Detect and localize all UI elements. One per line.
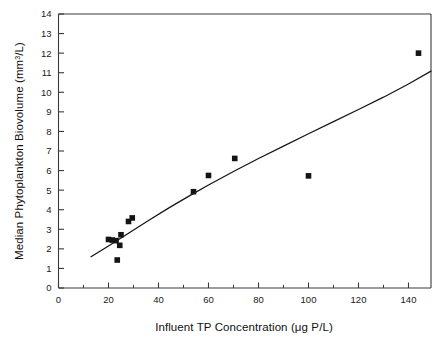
y-tick-label: 2 (46, 243, 51, 254)
x-tick-label: 20 (103, 294, 114, 305)
x-tick-label: 80 (253, 294, 264, 305)
x-axis-title: Influent TP Concentration (μg P/L) (155, 321, 333, 333)
y-tick-label: 11 (42, 67, 52, 78)
scatter-plot: 020406080100120140 01234567891011121314 … (0, 0, 447, 346)
x-tick-label: 40 (153, 294, 164, 305)
data-point-marker (129, 215, 135, 221)
data-point-marker (114, 257, 120, 263)
x-tick-label: 100 (301, 294, 317, 305)
x-tick-label: 120 (351, 294, 367, 305)
x-tick-label: 0 (56, 294, 61, 305)
x-tick-label: 60 (203, 294, 214, 305)
y-tick-label: 8 (46, 126, 51, 137)
data-point-marker (117, 243, 123, 249)
figure-container: 020406080100120140 01234567891011121314 … (0, 0, 447, 346)
data-point-marker (416, 50, 422, 56)
y-tick-label: 13 (41, 28, 52, 39)
y-tick-label: 7 (46, 145, 51, 156)
y-tick-label: 9 (46, 106, 51, 117)
y-tick-label: 3 (46, 224, 51, 235)
y-tick-label: 0 (46, 282, 51, 293)
data-point-marker (118, 232, 124, 238)
y-tick-label: 6 (46, 165, 51, 176)
y-tick-label: 10 (41, 87, 52, 98)
y-tick-label: 5 (46, 185, 51, 196)
x-tick-label: 140 (401, 294, 417, 305)
y-tick-label: 14 (41, 8, 52, 19)
figure-background (0, 0, 447, 346)
y-axis-title: Median Phytoplankton Biovolume (mm3/L) (13, 42, 25, 260)
data-point-marker (232, 156, 238, 162)
data-point-marker (191, 189, 197, 195)
y-tick-label: 12 (41, 48, 52, 59)
data-point-marker (206, 173, 212, 179)
y-tick-label: 4 (46, 204, 51, 215)
y-tick-label: 1 (46, 263, 51, 274)
data-point-marker (306, 173, 312, 179)
